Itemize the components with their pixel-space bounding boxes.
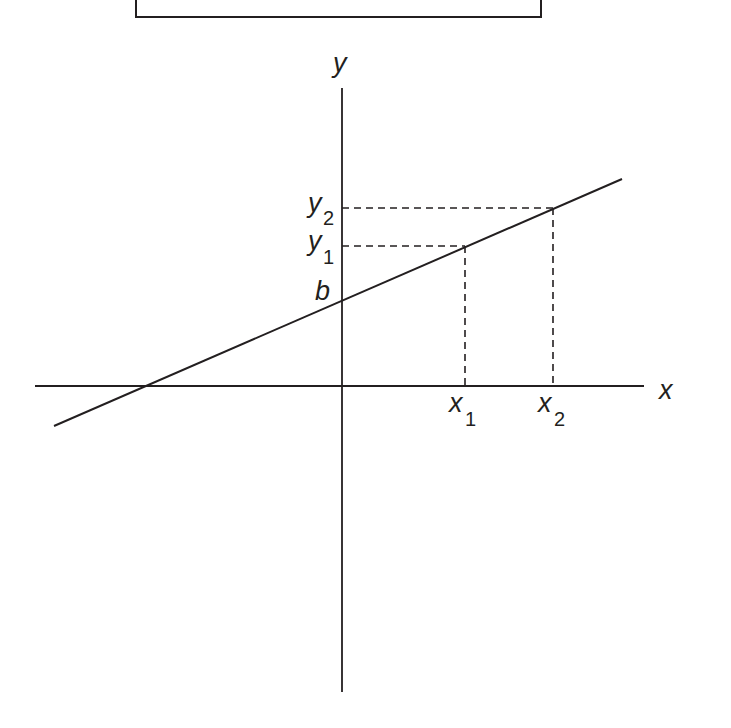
y-axis-label: y xyxy=(331,48,348,78)
y1-label: y xyxy=(306,226,323,256)
top-box-frame xyxy=(136,0,541,17)
linear-function-line xyxy=(54,179,622,426)
y2-label: y xyxy=(306,188,323,218)
intercept-label-b: b xyxy=(315,276,330,306)
x2-subscript: 2 xyxy=(554,408,565,430)
x-axis-label: x xyxy=(657,375,674,405)
y1-subscript: 1 xyxy=(323,246,334,268)
y2-subscript: 2 xyxy=(323,207,334,229)
x1-subscript: 1 xyxy=(465,408,476,430)
x2-label: x xyxy=(536,388,553,418)
diagram-canvas: y x b y 2 y 1 x 1 x 2 xyxy=(0,0,731,728)
x1-label: x xyxy=(447,388,464,418)
